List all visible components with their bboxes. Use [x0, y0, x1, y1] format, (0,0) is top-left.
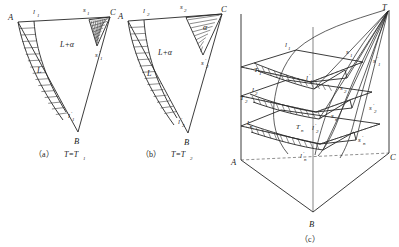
panel-c-liquidus-ln-prime-sub: n [304, 157, 307, 162]
panel-b-point-s2-prime: s [201, 59, 204, 67]
panel-b-region-liquid: L [146, 69, 152, 78]
panel-a-region-two-phase: L+α [59, 40, 75, 49]
panel-b-vertex-B: B [184, 137, 189, 147]
panel-c-vertex-B: B [309, 219, 314, 229]
panel-a-vertex-C: C [110, 7, 116, 17]
panel-a-labels: A B C l 1 s 1 l ′ 1 s ′ 1 L+α L [7, 6, 116, 146]
panel-b-point-s2-prime-mark: ′ [205, 58, 207, 63]
panel-c-solidus-s1-prime: s [373, 57, 376, 65]
panel-a-caption-index: （a） [34, 150, 54, 159]
panel-c-liquidus-ln-prime: l [300, 152, 302, 160]
panel-a: A B C l 1 s 1 l ′ 1 s ′ 1 L+α L （a） T=T [7, 6, 116, 161]
panel-c-liquidus-l2-sub: 2 [255, 91, 258, 96]
panel-c-isotherm-T2 [241, 80, 372, 119]
panel-c-solidus-sn: s [331, 112, 334, 120]
panel-c-liquidus-l2-prime: l [312, 124, 314, 132]
panel-b-point-s2: s [180, 3, 183, 11]
panel-c-temp-Tn-sub: n [301, 128, 304, 133]
panel-a-caption-text: T=T [64, 150, 79, 159]
panel-c-liquidus-l1-prime-sub: 1 [310, 79, 313, 84]
panel-c-solidus-s1-prime-sub: 1 [378, 62, 381, 67]
panel-b-caption-sub: 2 [190, 156, 193, 161]
panel-c-solidus-s1-prime-mark: ′ [377, 56, 379, 61]
panel-b-caption-text: T=T [171, 150, 186, 159]
panel-a-point-s1-prime-sub: 1 [100, 56, 103, 61]
panel-c-solidus-s1-sub: 1 [350, 53, 353, 58]
panel-c-vertex-T: T [382, 2, 388, 12]
panel-b-labels: A B C l 2 s 2 l ′ 2 s ′ 2 L+α L [117, 3, 227, 147]
panel-c-solidus-s2-sub: 2 [344, 89, 347, 94]
panel-c-isotherm-Tn [241, 110, 380, 150]
panel-b-caption-index: （b） [141, 150, 161, 159]
panel-c-vertex-C: C [390, 152, 396, 162]
panel-b-point-l2-prime-mark: ′ [181, 117, 183, 122]
panel-a-point-l1: l [33, 8, 35, 16]
panel-c-liquidus-l1: l [285, 41, 287, 49]
panel-c-caption: （c） [300, 235, 320, 244]
panel-b-caption: （b） T=T 2 [141, 150, 193, 161]
panel-a-caption: （a） T=T 1 [34, 150, 86, 161]
panel-c-solidus-surface [314, 11, 388, 158]
panel-c-temp-T1-sub: 1 [259, 71, 262, 76]
panel-c-liquidus-l2-prime-mark: ′ [315, 123, 317, 128]
panel-c-liquidus-ln: l [247, 119, 249, 127]
panel-b-region-two-phase: L+α [157, 48, 173, 57]
panel-c-solidus-sn-prime: s [358, 136, 361, 144]
panel-b-point-l2: l [143, 7, 145, 15]
panel-a-point-s1-prime: s [95, 51, 98, 59]
panel-b: α A B C l 2 s 2 l ′ 2 s ′ 2 L+α L （b） [117, 3, 227, 161]
panel-c-liquidus-l2: l [252, 86, 254, 94]
panel-a-point-l1-prime-sub: 1 [72, 117, 75, 122]
panel-a-alpha-wedge [89, 17, 110, 46]
panel-b-point-s2-sub: 2 [184, 8, 187, 13]
panel-b-point-s2-prime-sub: 2 [206, 64, 209, 69]
panel-c-liquidus-l1-sub: 1 [288, 46, 291, 51]
panel-c-temp-T2-sub: 2 [245, 99, 248, 104]
panel-a-vertex-A: A [7, 12, 14, 22]
panel-a-caption-sub: 1 [83, 156, 86, 161]
panel-c-liquidus-ln-prime-mark: ′ [303, 151, 305, 156]
panel-a-point-l1-prime: l [68, 112, 70, 120]
figure-root: A B C l 1 s 1 l ′ 1 s ′ 1 L+α L （a） T=T [0, 0, 399, 247]
panel-c-solidus-s2-prime-sub: 2 [374, 109, 377, 114]
panel-c-solidus-s2-prime: s [369, 104, 372, 112]
panel-a-region-liquid: L [36, 66, 42, 75]
panel-c-caption-index: （c） [300, 235, 320, 244]
panel-c-liquidus-l1-prime-mark: ′ [309, 73, 311, 78]
panel-b-liquid-hatching [129, 27, 176, 114]
panel-c-solidus-sn-prime-sub: n [363, 141, 366, 146]
panel-a-point-s1: s [83, 6, 86, 14]
panel-c-solidus-s2-prime-mark: ′ [373, 103, 375, 108]
panel-c-liquidus-l1-prime: l [306, 74, 308, 82]
panel-b-point-l2-sub: 2 [147, 12, 150, 17]
phase-diagram-svg: A B C l 1 s 1 l ′ 1 s ′ 1 L+α L （a） T=T [0, 0, 399, 247]
panel-a-point-l1-sub: 1 [37, 13, 40, 18]
panel-a-point-s1-sub: 1 [87, 11, 90, 16]
panel-c-liquidus-l2-prime-sub: 2 [316, 129, 319, 134]
panel-a-point-l1-prime-mark: ′ [71, 111, 73, 116]
panel-b-vertex-A: A [117, 11, 124, 21]
panel-c-vertex-A: A [230, 157, 237, 167]
panel-b-point-l2-prime: l [178, 118, 180, 126]
panel-a-vertex-B: B [74, 136, 79, 146]
panel-c-solidus-s2: s [340, 84, 343, 92]
panel-c-solidus-sn-prime-mark: ′ [362, 135, 364, 140]
panel-c-base-triangle [241, 10, 389, 212]
panel-b-vertex-C: C [221, 4, 227, 14]
panel-c: A B C T T 1 l 1 l ′ 1 s 1 s ′ 1 T 2 [230, 2, 396, 244]
panel-c-solidus-s1: s [346, 48, 349, 56]
